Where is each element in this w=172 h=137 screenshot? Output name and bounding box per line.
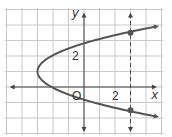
chart: x y O 2 2 xyxy=(0,0,172,137)
y-axis-arrow-up-icon xyxy=(82,13,87,18)
y-tick-label: 2 xyxy=(72,49,79,63)
y-axis-arrow-down-icon xyxy=(82,127,87,132)
x-axis-label: x xyxy=(150,87,158,102)
x-axis-arrow-left-icon xyxy=(10,85,15,90)
data-point xyxy=(128,30,134,36)
reference-arrow-down-icon xyxy=(128,127,133,132)
origin-label: O xyxy=(72,89,81,103)
y-axis-label: y xyxy=(71,5,80,20)
reference-arrow-up-icon xyxy=(128,13,133,18)
data-point xyxy=(128,107,134,113)
x-tick-label: 2 xyxy=(112,89,119,103)
